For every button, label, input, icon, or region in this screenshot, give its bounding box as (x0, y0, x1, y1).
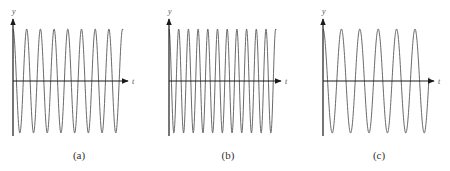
sinusoid-figure: y t (a) y t (b) y t (c) (0, 0, 450, 171)
t-axis-label: t (438, 77, 441, 86)
t-axis-label: t (132, 77, 135, 86)
panel-c: y t (c) (321, 7, 441, 162)
panel-caption: (c) (373, 149, 386, 162)
panel-a: y t (a) (11, 7, 135, 162)
t-axis-label: t (285, 77, 288, 86)
panel-caption: (b) (222, 149, 235, 162)
y-axis-label: y (321, 7, 326, 16)
y-axis-label: y (167, 7, 172, 16)
panel-caption: (a) (73, 149, 86, 162)
panel-b: y t (b) (167, 7, 288, 162)
y-axis-label: y (11, 7, 16, 16)
